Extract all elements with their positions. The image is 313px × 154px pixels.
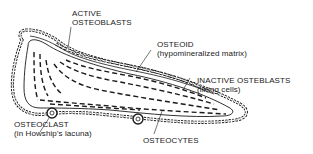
label-inactive-osteoblasts: INACTIVE OSTEBLASTS (lining cells) — [197, 77, 290, 94]
bone-trabecula-diagram: ACTIVE OSTEOBLASTS OSTEOID (hypominerali… — [0, 0, 313, 154]
osteoclast-cell — [47, 108, 57, 118]
label-active-osteoblasts: ACTIVE OSTEOBLASTS — [72, 10, 132, 27]
label-osteoid: OSTEOID (hypomineralized matrix) — [157, 41, 247, 58]
label-osteoclast: OSTEOCLAST (in Howship's lacuna) — [14, 121, 92, 138]
osteoclast-cell-2 — [133, 114, 143, 124]
leader-active-osteoblasts — [68, 27, 71, 48]
label-osteocytes: OSTEOCYTES — [143, 137, 199, 146]
